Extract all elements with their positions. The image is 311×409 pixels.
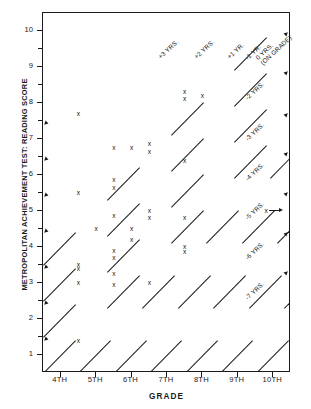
x-tick-label: 10TH [252,376,292,384]
x-tick-label: 6TH [111,376,151,384]
reference-line-segment [206,210,239,243]
data-point: x [199,92,205,100]
y-tick-label: 5 [17,206,33,214]
reference-line-segment [149,340,182,372]
data-point: x [129,144,135,152]
reference-line-segment [277,229,290,244]
y-axis-title: METROPOLITAN ACHIEVEMENT TEST: READING S… [20,35,29,335]
y-tick-label: 4 [17,242,33,250]
data-point: x [75,337,81,345]
data-point: x [146,148,152,156]
x-axis-title: GRADE [42,392,291,401]
data-point: x [182,157,188,165]
x-tick-label: 9TH [217,376,257,384]
data-point: x [111,281,117,289]
x-tick-label: 8TH [181,376,221,384]
data-point: x [75,279,81,287]
data-point: x [182,248,188,256]
y-tick-label: 7 [17,134,33,142]
reference-line-segment [171,174,204,207]
reference-line-segment [284,301,290,309]
data-point: x [111,270,117,278]
plot-area: xxxxxxxxxxxxxxxxxxxxxxxxxxxxxxx [42,12,290,372]
x-tick-label: 4TH [40,376,80,384]
y-tick-label: 8 [17,98,33,106]
data-point: x [111,144,117,152]
data-point: x [93,225,99,233]
reference-line-segment [213,275,246,308]
reference-line-segment [270,157,290,179]
reference-line-segment [256,340,289,372]
data-point: x [146,279,152,287]
reference-line-segment [43,304,76,337]
y-tick-label: 3 [17,278,33,286]
reference-line-segment [43,340,76,372]
data-point: x [182,214,188,222]
y-tick-label: 1 [17,350,33,358]
reference-line-segment [114,340,147,372]
scatter-chart-figure: METROPOLITAN ACHIEVEMENT TEST: READING S… [0,0,311,409]
y-tick-label: 10 [17,26,33,34]
data-point: x [75,189,81,197]
y-tick-label: 9 [17,62,33,70]
data-point: x [263,207,269,215]
x-tick-label: 5TH [75,376,115,384]
annotation-arrowhead [279,208,283,212]
data-point: x [146,214,152,222]
reference-line-segment [220,340,253,372]
y-tick-label: 2 [17,314,33,322]
reference-line-segment [43,232,76,265]
data-point: x [111,184,117,192]
data-point: x [129,236,135,244]
reference-line-segment [171,102,204,135]
data-point: x [111,212,117,220]
reference-line-segment [171,138,204,171]
data-point: x [111,254,117,262]
data-point: x [129,225,135,233]
reference-line-segment [178,275,211,308]
reference-line-segment [185,340,218,372]
data-point: x [75,110,81,118]
y-tick-label: 6 [17,170,33,178]
reference-line-segment [43,268,76,301]
x-tick-label: 7TH [146,376,186,384]
reference-line-segment [78,340,111,372]
data-point: x [182,95,188,103]
data-point: x [75,265,81,273]
